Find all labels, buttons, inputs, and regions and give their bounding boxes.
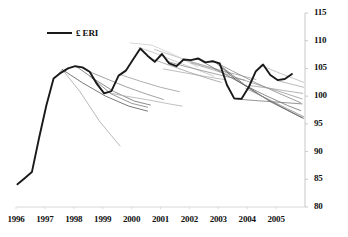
x-axis-tick-label: 2001: [152, 214, 169, 224]
series-line-forecast: [191, 63, 302, 99]
series-line-forecast: [106, 92, 183, 106]
actual-line-group: [17, 48, 292, 184]
x-axis-tick-label: 1999: [94, 214, 111, 224]
y-axis-tick-label: 100: [314, 90, 327, 100]
series-line-forecast: [62, 70, 147, 112]
x-axis-tick-label: 2003: [210, 214, 227, 224]
legend-label-eri: £ ERI: [76, 28, 98, 38]
x-axis-tick-label: 2004: [239, 214, 256, 224]
x-axis-tick-label: 2005: [267, 214, 284, 224]
legend-line-swatch: [47, 32, 72, 34]
chart-legend: £ ERI: [47, 28, 98, 38]
x-axis-tick-label: 2002: [181, 214, 198, 224]
x-axis-tick-label: 1998: [65, 214, 82, 224]
chart-container: 80859095100105110115 1996199719981999200…: [0, 0, 348, 237]
forecast-lines-group: [55, 43, 304, 146]
y-axis-tick-label: 110: [314, 35, 326, 45]
y-axis-tick-label: 95: [314, 118, 323, 128]
x-axis-tick-label: 1996: [7, 214, 24, 224]
x-axis-tick-label: 2000: [123, 214, 140, 224]
series-line-forecast: [120, 75, 179, 92]
y-axis-tick-label: 90: [314, 146, 323, 156]
y-axis-tick-label: 105: [314, 62, 327, 72]
y-axis-tick-label: 85: [314, 173, 323, 183]
chart-axes: [16, 13, 308, 209]
series-line-forecast: [278, 81, 304, 88]
series-line-forecast: [155, 50, 230, 74]
y-axis-tick-label: 80: [314, 201, 323, 211]
series-line-actual: [17, 48, 292, 184]
x-axis-tick-label: 1997: [36, 214, 53, 224]
y-axis-tick-label: 115: [314, 7, 326, 17]
series-line-forecast: [55, 70, 120, 146]
